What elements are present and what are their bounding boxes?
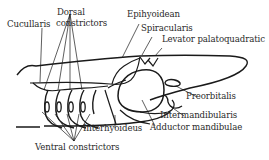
label-interhyoideus: Interhyoideus xyxy=(83,124,142,133)
label-preorbitalis: Preorbitalis xyxy=(186,92,236,101)
label-levator-palatoquadratic: Levator palatoquadratic xyxy=(162,35,265,44)
label-spiracularis: Spiracularis xyxy=(141,24,193,33)
label-dorsal-line1: Dorsal xyxy=(57,8,85,17)
label-adductor-mandibulae: Adductor mandibulae xyxy=(150,123,242,132)
adductor-mandibulae xyxy=(118,70,164,112)
preorbitalis-muscle xyxy=(165,80,180,87)
label-epihyoidean: Epihyoidean xyxy=(127,10,180,19)
label-intermandibularis: Intermandibularis xyxy=(160,111,237,120)
label-ventral-constrictors: Ventral constrictors xyxy=(35,143,119,152)
label-cucullaris: Cucullaris xyxy=(7,20,50,29)
label-dorsal-line2: constrictors xyxy=(56,19,107,28)
